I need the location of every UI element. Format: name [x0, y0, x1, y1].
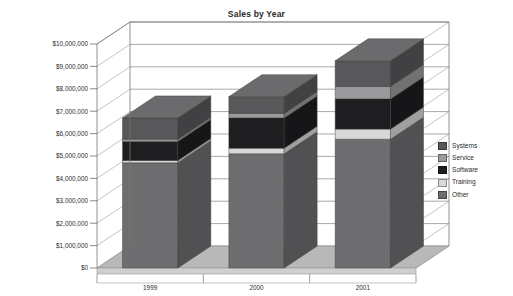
legend-label: Software: [452, 167, 478, 174]
legend-item-other[interactable]: Other: [438, 189, 510, 201]
x-axis-tick-label: 2000: [249, 284, 264, 291]
legend-swatch-icon: [438, 191, 447, 199]
legend-label: Other: [452, 192, 469, 199]
y-axis-tick-label: $1,000,000: [56, 242, 88, 249]
y-axis-tick-label: $2,000,000: [56, 220, 88, 227]
legend-swatch-icon: [438, 154, 447, 162]
x-axis-labels: 199920002001: [97, 274, 416, 291]
chart-plot-area: $0$1,000,000$2,000,000$3,000,000$4,000,0…: [0, 0, 513, 296]
y-axis-tick-label: $7,000,000: [56, 108, 88, 115]
y-axis-tick-label: $4,000,000: [56, 175, 88, 182]
y-axis-tick-label: $5,000,000: [56, 152, 88, 159]
chart-container: Sales by Year $0$1,000,000$2,000,000$3,0…: [0, 0, 513, 296]
legend-item-systems[interactable]: Systems: [438, 140, 510, 152]
y-axis-tick-label: $10,000,000: [52, 40, 88, 47]
legend-label: Systems: [452, 143, 477, 150]
legend-label: Service: [452, 155, 474, 162]
y-axis-tick-label: $6,000,000: [56, 130, 88, 137]
y-axis-tick-label: $9,000,000: [56, 63, 88, 70]
legend-swatch-icon: [438, 166, 447, 174]
y-axis-tick-label: $8,000,000: [56, 85, 88, 92]
bars: [123, 39, 424, 268]
y-axis-labels: $0$1,000,000$2,000,000$3,000,000$4,000,0…: [52, 40, 97, 271]
x-axis-tick-label: 2001: [356, 284, 371, 291]
legend-item-software[interactable]: Software: [438, 164, 510, 176]
legend-item-service[interactable]: Service: [438, 152, 510, 164]
x-axis-tick-label: 1999: [143, 284, 158, 291]
legend-item-training[interactable]: Training: [438, 177, 510, 189]
legend-swatch-icon: [438, 142, 447, 150]
bar-segment: [335, 117, 423, 268]
y-axis-tick-label: $3,000,000: [56, 197, 88, 204]
y-axis-tick-label: $0: [81, 264, 89, 271]
chart-legend: SystemsServiceSoftwareTrainingOther: [438, 140, 510, 201]
legend-label: Training: [452, 179, 476, 186]
legend-swatch-icon: [438, 179, 447, 187]
